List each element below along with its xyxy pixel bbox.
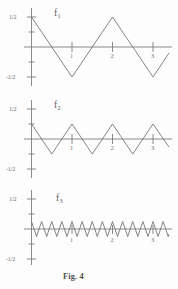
axes-f1: [24, 8, 172, 86]
x-label-1-f1: 1: [70, 52, 73, 59]
function-label-f2-sub: 2: [57, 104, 60, 111]
x-label-3-f2: 3: [151, 144, 154, 151]
plot-panel-f1: [0, 0, 178, 92]
function-label-f1-sub: 1: [57, 12, 60, 19]
function-label-f3: f3: [56, 193, 62, 203]
y-label-bottom-f2: -1/2: [6, 165, 15, 172]
axes-f2: [24, 100, 172, 178]
function-label-f3-sub: 3: [59, 197, 62, 204]
function-label-f2: f2: [54, 100, 60, 110]
x-label-1-f3: 1: [70, 236, 73, 243]
x-label-2-f3: 2: [111, 236, 114, 243]
figure-caption: Fig. 4: [63, 272, 84, 281]
plot-panel-f3: [0, 185, 178, 270]
y-label-top-f2: 1/2: [9, 105, 16, 112]
y-label-top-f3: 1/2: [9, 195, 16, 202]
x-label-1-f2: 1: [70, 144, 73, 151]
plot-svg-f2: [0, 92, 178, 185]
x-label-3-f1: 3: [151, 52, 154, 59]
x-label-2-f2: 2: [111, 144, 114, 151]
figure-container: 1/2 -1/2 1 2 3 f1 1/2 -1/2 1 2 3 f2: [0, 0, 178, 289]
plot-svg-f3: [0, 185, 178, 270]
y-label-bottom-f1: -1/2: [6, 73, 15, 80]
function-label-f1: f1: [54, 8, 60, 18]
y-label-bottom-f3: -1/2: [6, 255, 15, 262]
y-label-top-f1: 1/2: [9, 13, 16, 20]
x-label-3-f3: 3: [151, 236, 154, 243]
x-label-2-f1: 2: [111, 52, 114, 59]
plot-svg-f1: [0, 0, 178, 92]
axes-f3: [24, 190, 172, 265]
plot-panel-f2: [0, 92, 178, 185]
